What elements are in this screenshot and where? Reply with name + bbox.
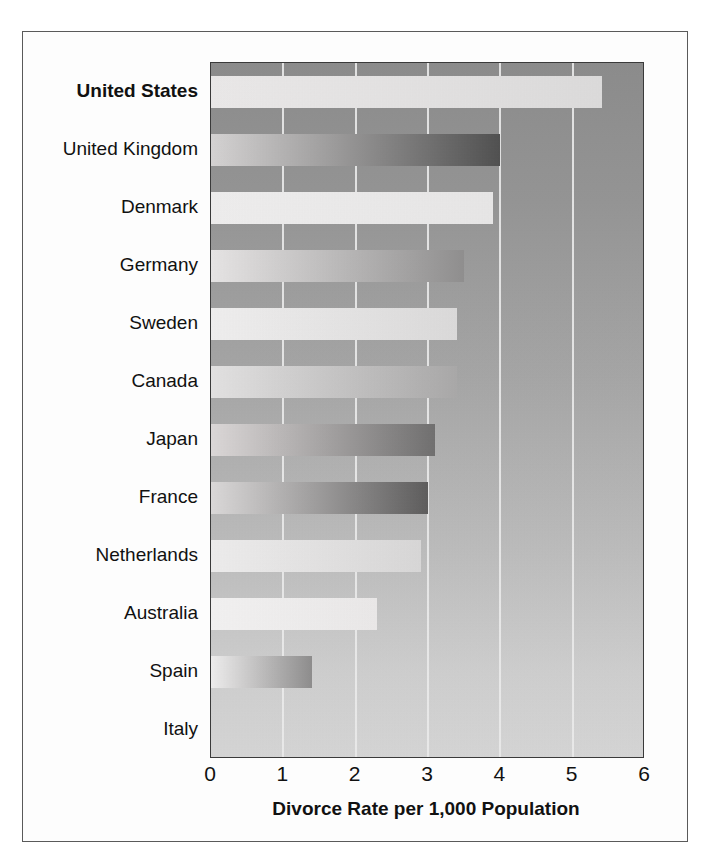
x-tick-label-5: 5 [557,762,587,786]
x-tick-label-4: 4 [484,762,514,786]
x-axis-title: Divorce Rate per 1,000 Population [163,798,689,820]
bar-netherlands [211,540,421,572]
bar-spain [211,656,312,688]
gridline-1 [282,63,284,757]
bar-canada [211,366,457,398]
category-label-sweden: Sweden [129,307,198,339]
x-tick-label-6: 6 [629,762,659,786]
bar-united-kingdom [211,134,500,166]
divorce-rate-bar-chart: United StatesUnited KingdomDenmarkGerman… [23,32,689,843]
category-label-france: France [139,481,198,513]
figure-frame: United StatesUnited KingdomDenmarkGerman… [22,31,688,842]
x-tick-label-2: 2 [340,762,370,786]
gridline-3 [427,63,429,757]
bar-france [211,482,428,514]
category-label-united-kingdom: United Kingdom [63,133,198,165]
category-label-canada: Canada [131,365,198,397]
bar-sweden [211,308,457,340]
category-label-spain: Spain [149,655,198,687]
gridline-4 [499,63,501,757]
gridline-2 [355,63,357,757]
category-label-denmark: Denmark [121,191,198,223]
category-label-netherlands: Netherlands [96,539,198,571]
category-axis-labels: United StatesUnited KingdomDenmarkGerman… [23,62,206,758]
category-label-australia: Australia [124,597,198,629]
category-label-united-states: United States [77,75,198,107]
category-label-italy: Italy [163,713,198,745]
x-tick-label-3: 3 [412,762,442,786]
gridline-5 [572,63,574,757]
plot-area [210,62,644,758]
bar-denmark [211,192,493,224]
x-tick-label-1: 1 [267,762,297,786]
x-tick-label-0: 0 [195,762,225,786]
bar-australia [211,598,377,630]
x-axis-tick-labels: 0123456 [210,762,644,790]
category-label-japan: Japan [146,423,198,455]
bar-japan [211,424,435,456]
bar-united-states [211,76,602,108]
category-label-germany: Germany [120,249,198,281]
bar-italy [211,714,283,746]
bar-germany [211,250,464,282]
